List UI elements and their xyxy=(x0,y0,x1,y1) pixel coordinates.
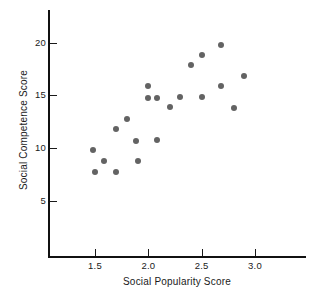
data-point xyxy=(101,158,107,164)
data-point xyxy=(218,83,224,89)
data-point xyxy=(124,116,130,122)
data-point xyxy=(133,138,139,144)
x-axis-tick-label: 1.5 xyxy=(80,260,110,271)
y-axis-tick xyxy=(50,201,57,202)
y-axis-tick xyxy=(50,95,57,96)
y-axis-tick-label: 5 xyxy=(24,196,46,206)
y-axis-title: Social Competence Score xyxy=(18,50,30,210)
x-axis-title: Social Popularity Score xyxy=(48,276,306,288)
plot-area xyxy=(0,0,314,299)
x-axis-tick-label: 2.0 xyxy=(133,260,163,271)
x-axis-tick-label: 3.0 xyxy=(240,260,270,271)
data-point xyxy=(167,104,173,110)
data-point xyxy=(92,169,98,175)
x-axis-tick xyxy=(148,249,149,256)
data-point xyxy=(231,105,237,111)
y-axis-tick-label: 10 xyxy=(24,143,46,153)
data-point xyxy=(188,62,194,68)
data-point xyxy=(90,147,96,153)
x-axis-tick xyxy=(202,249,203,256)
data-point xyxy=(145,83,151,89)
data-point xyxy=(218,42,224,48)
data-point xyxy=(199,94,205,100)
y-axis-tick-label: 20 xyxy=(24,38,46,48)
data-point xyxy=(177,94,183,100)
data-point xyxy=(113,126,119,132)
data-point xyxy=(154,137,160,143)
scatter-chart-figure: Social Popularity Score Social Competenc… xyxy=(0,0,314,299)
x-axis-tick-label: 2.5 xyxy=(187,260,217,271)
data-point xyxy=(113,169,119,175)
data-point xyxy=(135,158,141,164)
data-point xyxy=(154,95,160,101)
y-axis-tick xyxy=(50,43,57,44)
x-axis-tick xyxy=(95,249,96,256)
data-point xyxy=(241,73,247,79)
data-point xyxy=(199,52,205,58)
x-axis-tick xyxy=(255,249,256,256)
y-axis-tick-label: 15 xyxy=(24,90,46,100)
y-axis-tick xyxy=(50,148,57,149)
data-point xyxy=(145,95,151,101)
